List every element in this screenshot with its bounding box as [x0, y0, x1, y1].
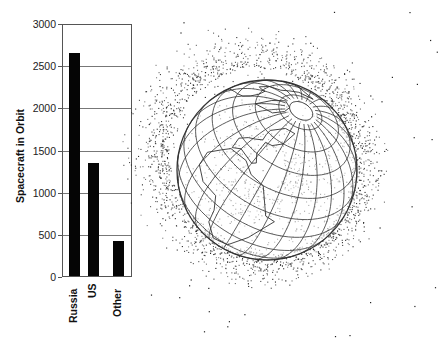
globe-illustration — [0, 0, 443, 339]
figure: Spacecraft in Orbit 05001000150020002500… — [0, 0, 443, 339]
